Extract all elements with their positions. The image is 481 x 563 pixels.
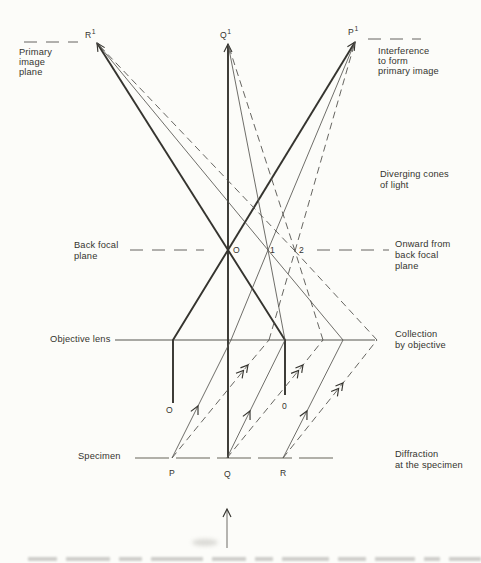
first-order-ray-to-image-Q1 bbox=[228, 44, 268, 250]
first-order-ray-to-image-P1 bbox=[268, 42, 355, 250]
specimen-point-Q-label: Q bbox=[224, 469, 231, 479]
specimen-label: Specimen bbox=[78, 451, 121, 461]
image-point-Q1-label: Q1 bbox=[220, 28, 231, 40]
image-point-Q1-sup: 1 bbox=[227, 28, 231, 35]
interference-label-line2: to form bbox=[378, 56, 408, 66]
ray-diagram: Primary image plane Back focal plane Obj… bbox=[0, 0, 481, 563]
collection-label-line2: by objective bbox=[395, 340, 446, 350]
second-order-ray-to-image-Q1 bbox=[228, 44, 295, 251]
specimen-point-P-label: P bbox=[169, 468, 175, 478]
image-point-P1-base: P bbox=[348, 27, 354, 37]
image-point-Q1-base: Q bbox=[220, 30, 227, 40]
back-focal-plane-label-line1: Back focal bbox=[74, 240, 118, 250]
second-order-ray-from-R bbox=[283, 340, 377, 458]
image-point-R1-base: R bbox=[85, 30, 91, 40]
diffraction-label-line1: Diffraction bbox=[395, 449, 438, 459]
direct-beam-from-R bbox=[228, 250, 285, 395]
second-order-ray-to-image-R1 bbox=[97, 43, 295, 251]
second-order-ray-P-to-bfp bbox=[269, 251, 295, 340]
direct-beam-to-image-P1 bbox=[228, 42, 355, 250]
image-point-R1-sup: 1 bbox=[92, 28, 96, 35]
diverging-cones-label-line1: Diverging cones bbox=[380, 169, 449, 179]
bfp-point-O-label: O bbox=[233, 245, 240, 255]
bfp-point-1-label: 1 bbox=[270, 245, 275, 255]
onward-label-line1: Onward from bbox=[395, 239, 450, 249]
interference-label-line3: primary image bbox=[378, 66, 439, 76]
diffraction-label-line2: at the specimen bbox=[395, 460, 463, 470]
second-order-ray-from-P bbox=[172, 340, 269, 458]
direct-beam-R-label: 0 bbox=[282, 401, 287, 411]
bfp-point-2-label: 2 bbox=[299, 245, 304, 255]
second-order-ray-from-Q bbox=[227, 340, 323, 458]
first-order-ray-from-Q bbox=[227, 340, 285, 458]
scanned-figure-page: Primary image plane Back focal plane Obj… bbox=[0, 0, 481, 563]
first-order-ray-to-image-R1 bbox=[97, 43, 268, 250]
second-order-ray-Q-to-bfp bbox=[295, 251, 323, 340]
direct-beam-from-P bbox=[173, 250, 228, 403]
objective-lens-label: Objective lens bbox=[50, 334, 111, 344]
primary-image-plane-label-line1: Primary bbox=[19, 47, 52, 57]
image-point-P1-label: P1 bbox=[348, 25, 358, 37]
direct-beam-P-label: O bbox=[166, 405, 173, 415]
collection-label-line1: Collection bbox=[395, 329, 437, 339]
first-order-ray-R-to-bfp bbox=[268, 250, 343, 340]
cutoff-caption-artifact bbox=[0, 555, 481, 563]
second-order-ray-R-to-bfp bbox=[295, 251, 377, 340]
diverging-cones-label-line2: of light bbox=[380, 180, 409, 190]
primary-image-plane-label-line2: image bbox=[19, 57, 45, 67]
first-order-ray-from-R bbox=[283, 340, 343, 458]
back-focal-plane-label-line2: plane bbox=[74, 251, 98, 261]
direct-beam-to-image-R1 bbox=[97, 43, 228, 250]
primary-image-plane-label-line3: plane bbox=[19, 67, 43, 77]
image-point-R1-label: R1 bbox=[85, 28, 96, 40]
interference-label-line1: Interference bbox=[378, 46, 429, 56]
second-order-ray-to-image-P1 bbox=[295, 42, 355, 251]
scan-smudge-artifact bbox=[192, 539, 218, 546]
first-order-ray-from-P bbox=[172, 340, 231, 458]
image-point-P1-sup: 1 bbox=[354, 25, 358, 32]
onward-label-line3: plane bbox=[395, 261, 419, 271]
specimen-point-R-label: R bbox=[280, 468, 286, 478]
onward-label-line2: back focal bbox=[395, 250, 438, 260]
